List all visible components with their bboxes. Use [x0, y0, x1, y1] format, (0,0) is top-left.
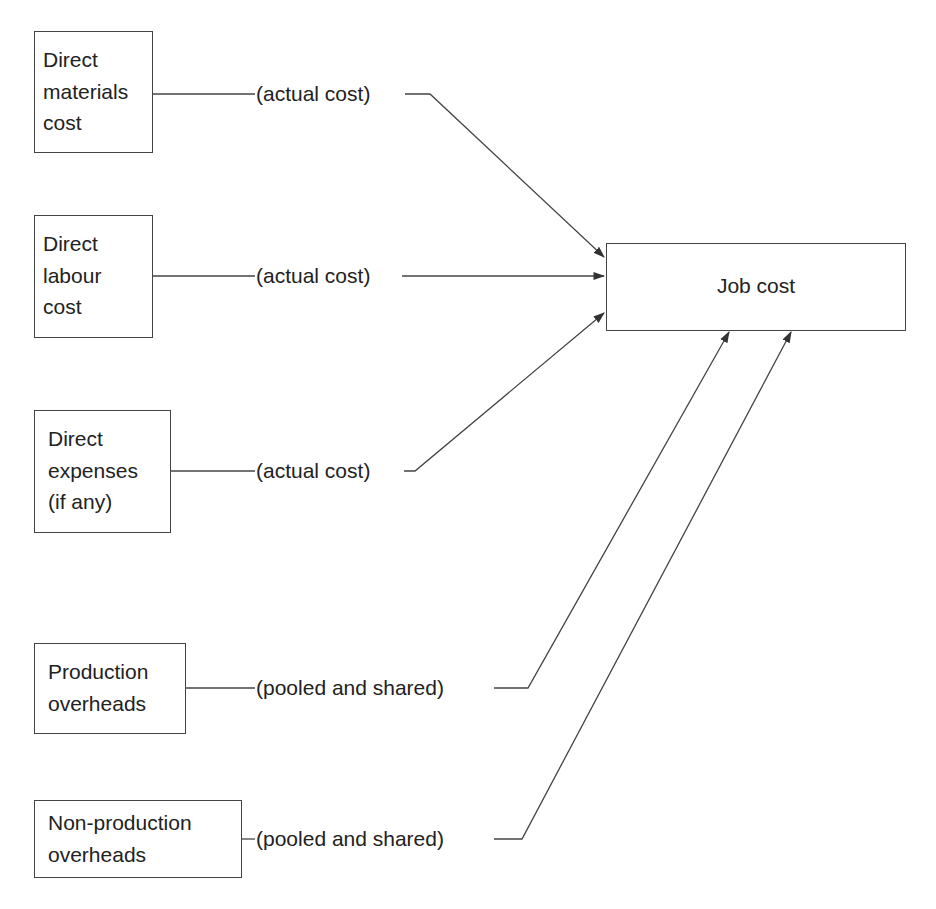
box-non-production-overheads: Non-productionoverheads [34, 800, 242, 878]
box-label: Directlabourcost [43, 228, 101, 323]
arrow-po [494, 332, 729, 688]
connector-label-dl: (actual cost) [256, 264, 370, 288]
box-production-overheads: Productionoverheads [34, 643, 186, 734]
connector-label-po: (pooled and shared) [256, 676, 444, 700]
box-label: Directexpenses(if any) [48, 423, 138, 518]
box-label: Non-productionoverheads [48, 807, 192, 870]
connector-label-npo: (pooled and shared) [256, 827, 444, 851]
connector-label-dm: (actual cost) [256, 82, 370, 106]
job-cost-label: Job cost [607, 274, 905, 298]
box-job-cost: Job cost [606, 243, 906, 331]
box-direct-labour-cost: Directlabourcost [34, 215, 153, 338]
box-direct-materials-cost: Directmaterialscost [34, 31, 153, 153]
box-label: Directmaterialscost [43, 44, 128, 139]
arrow-de [404, 313, 604, 471]
box-direct-expenses: Directexpenses(if any) [34, 410, 171, 533]
arrow-npo [494, 332, 791, 839]
arrow-dm [405, 94, 604, 257]
connector-label-de: (actual cost) [256, 459, 370, 483]
box-label: Productionoverheads [48, 656, 148, 719]
